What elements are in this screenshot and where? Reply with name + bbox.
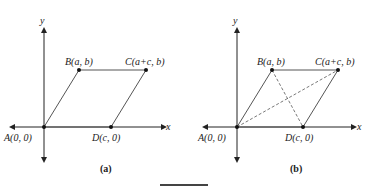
point-d	[301, 125, 305, 129]
label-b: B(a, b)	[65, 56, 93, 68]
point-d	[109, 125, 113, 129]
caption-b: (b)	[290, 163, 302, 175]
label-d: D(c, 0)	[284, 132, 314, 144]
label-c: C(a+c, b)	[315, 56, 355, 68]
caption-a: (a)	[100, 163, 112, 175]
label-d: D(c, 0)	[91, 132, 121, 144]
label-b: B(a, b)	[257, 56, 285, 68]
caption-remnant	[160, 184, 208, 186]
label-a: A(0, 0)	[197, 132, 226, 144]
y-axis-label: y	[232, 15, 238, 26]
point-c	[336, 68, 340, 72]
figure-b: x y B(a, b) C(a+c, b) A(0, 0) D(c, 0) (b…	[197, 15, 362, 175]
parallelogram	[44, 70, 146, 127]
point-a	[42, 125, 46, 129]
point-c	[144, 68, 148, 72]
label-a: A(0, 0)	[3, 132, 32, 144]
y-axis-label: y	[39, 15, 45, 26]
label-c: C(a+c, b)	[125, 56, 165, 68]
figure-canvas: x y B(a, b) C(a+c, b) A(0, 0) D(c, 0) (a…	[0, 0, 373, 186]
diagonal-bd	[272, 70, 303, 127]
point-a	[235, 125, 239, 129]
x-axis-label: x	[356, 121, 362, 132]
point-b	[270, 68, 274, 72]
figure-a: x y B(a, b) C(a+c, b) A(0, 0) D(c, 0) (a…	[3, 15, 171, 175]
point-b	[77, 68, 81, 72]
x-axis-label: x	[165, 121, 171, 132]
